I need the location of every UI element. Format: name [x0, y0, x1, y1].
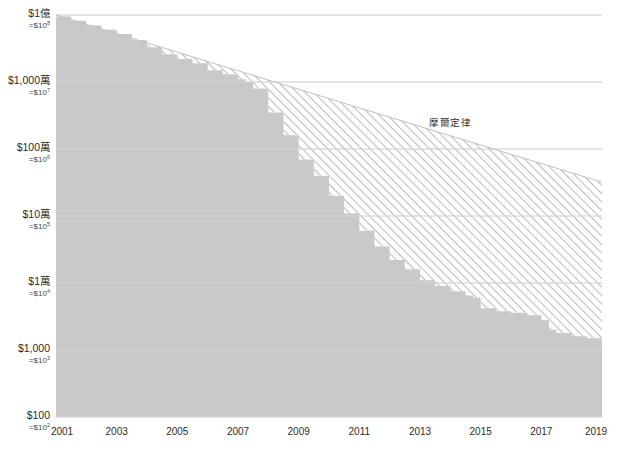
y-tick-sublabel: =$106 — [29, 154, 50, 164]
x-tick-label: 2015 — [470, 426, 493, 437]
y-tick-sublabel: =$105 — [29, 221, 50, 231]
y-tick-label: $1億 — [28, 7, 51, 19]
y-tick-label: $100萬 — [17, 141, 50, 153]
y-tick-label: $1萬 — [28, 275, 50, 287]
y-tick-sublabel: =$103 — [29, 355, 50, 365]
y-tick-label: $1,000 — [18, 342, 50, 354]
x-tick-label: 2019 — [585, 426, 608, 437]
y-tick-label: $10萬 — [22, 208, 50, 220]
x-tick-label: 2013 — [409, 426, 432, 437]
x-tick-label: 2017 — [530, 426, 553, 437]
cost-per-genome-chart: $1億=$108$1,000萬=$107$100萬=$106$10萬=$105$… — [0, 0, 623, 449]
y-tick-label: $1,000萬 — [8, 74, 50, 86]
x-tick-label: 2009 — [288, 426, 311, 437]
x-tick-label: 2005 — [166, 426, 189, 437]
annotation-moores-law: 摩爾定律 — [429, 117, 471, 128]
y-tick-sublabel: =$108 — [29, 20, 50, 30]
x-tick-label: 2007 — [227, 426, 250, 437]
y-tick-label: $100 — [27, 409, 51, 421]
y-tick-sublabel: =$102 — [29, 422, 50, 432]
x-tick-label: 2011 — [349, 426, 371, 437]
y-tick-sublabel: =$107 — [29, 87, 50, 97]
chart-canvas: $1億=$108$1,000萬=$107$100萬=$106$10萬=$105$… — [0, 0, 623, 449]
x-tick-label: 2001 — [51, 426, 74, 437]
x-tick-label: 2003 — [106, 426, 129, 437]
chart-annotations: 摩爾定律 — [429, 117, 471, 128]
y-tick-sublabel: =$104 — [29, 288, 50, 298]
